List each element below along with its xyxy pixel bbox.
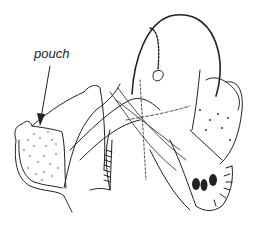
internal-lines [110,80,190,180]
figure-canvas: pouch [0,0,258,228]
genitalia-drawing [0,0,258,228]
pouch-structure [15,92,84,212]
dorsal-dome [132,15,240,130]
pouch-label: pouch [34,46,69,61]
